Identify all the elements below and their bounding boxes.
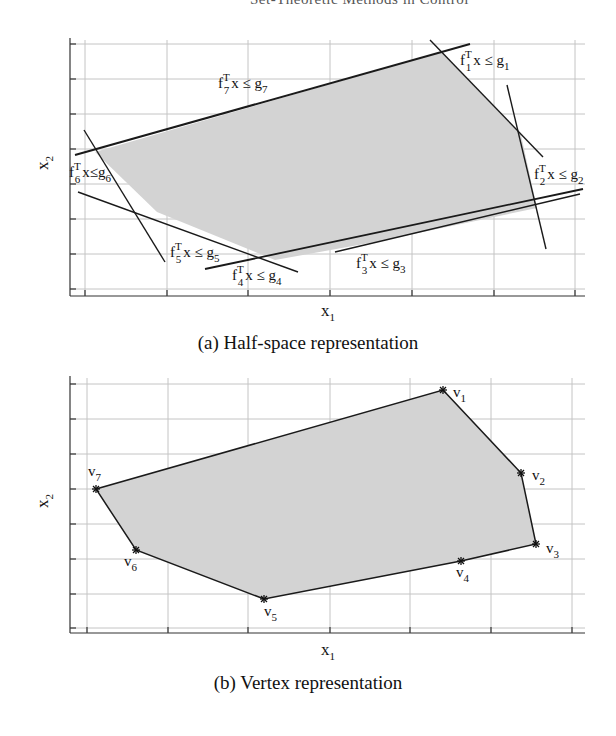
label-f3: fT3x ≤ g3 [356,251,406,276]
vertex-label-1: v1 [453,384,466,404]
vertex-label-5: v5 [264,603,278,623]
caption-b: (b) Vertex representation [0,672,616,694]
vertex-label-6: v6 [124,553,138,573]
vertex-marker-6 [132,546,140,554]
vertex-label-3: v3 [546,540,560,560]
halfspace-plot: fT7x ≤ g7 fT1x ≤ g1 fT2x ≤ g2 fT3x ≤ g3 … [0,0,616,736]
label-f2: fT2x ≤ g2 [534,162,583,187]
vertex-label-7: v7 [88,463,102,483]
xlabel-b: x1 [321,640,335,662]
vertex-marker-7 [92,485,100,493]
feasible-region-b [96,390,536,599]
label-f4: fT4x ≤ g4 [232,263,282,288]
vertex-marker-5 [260,595,268,603]
caption-a: (a) Half-space representation [0,332,616,354]
xlabel-a: x1 [321,301,335,323]
ylabel-b: x2 [33,494,55,508]
label-f1: fT1x ≤ g1 [460,48,509,73]
vertex-marker-1 [439,386,447,394]
feasible-region-a [95,52,537,260]
vertex-label-4: v4 [456,564,470,584]
polytope-figure: Set-Theoretic Methods in Control [0,0,616,736]
label-f7: fT7x ≤ g7 [218,71,268,96]
ylabel-a: x2 [33,156,55,170]
vertex-label-2: v2 [532,467,545,487]
vertex-marker-3 [532,540,540,548]
vertex-marker-2 [517,469,525,477]
label-f6: fT6x≤g6 [69,160,111,185]
label-f5: fT5x ≤ g5 [170,240,220,265]
